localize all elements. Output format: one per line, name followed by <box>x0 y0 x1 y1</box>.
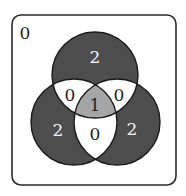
label-outside: 0 <box>20 23 31 43</box>
label-top-right: 0 <box>114 85 125 105</box>
label-left-only: 2 <box>53 120 64 140</box>
label-all-three: 1 <box>90 95 101 115</box>
label-top-left: 0 <box>65 85 76 105</box>
venn-diagram: 0 2 2 2 0 0 0 1 <box>0 0 186 196</box>
label-top-only: 2 <box>90 47 101 67</box>
label-right-only: 2 <box>127 119 138 139</box>
label-left-right: 0 <box>90 124 101 144</box>
